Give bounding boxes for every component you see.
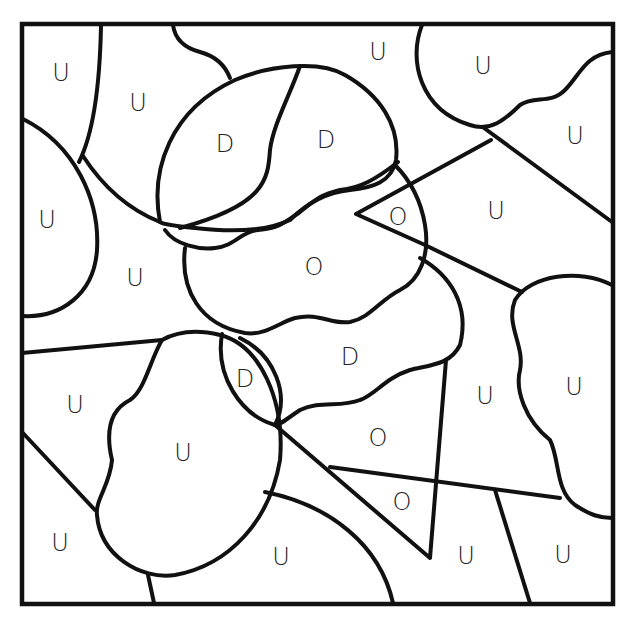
region-label: U (476, 382, 494, 410)
right-wavy-cloud (512, 276, 612, 518)
region-label: D (216, 130, 234, 158)
left-lower-diagonal (22, 432, 95, 510)
outline-shapes (22, 25, 612, 603)
region-label: U (565, 373, 583, 401)
top-wave (173, 25, 230, 78)
leaf-oval (158, 66, 397, 230)
region-label: U (38, 206, 56, 234)
region-label: U (487, 197, 505, 225)
region-label: O (389, 203, 408, 231)
line-top-left-divider (79, 25, 101, 162)
region-label: U (554, 541, 572, 569)
cloud-wave-top (165, 162, 398, 248)
coloring-page-canvas: U U U U U D D U O U U O D D U U U U O O … (0, 0, 634, 623)
region-label: U (272, 543, 290, 571)
bottom-right-divider (495, 490, 530, 603)
region-label: U (126, 264, 144, 292)
left-horizontal-line (22, 340, 162, 353)
region-label: U (66, 391, 84, 419)
region-label: O (393, 488, 412, 516)
outer-frame (22, 24, 613, 604)
region-label: O (305, 253, 324, 281)
leaf-inner-divider (180, 66, 300, 228)
region-label: U (174, 439, 192, 467)
region-label: U (51, 529, 69, 557)
region-label: D (236, 365, 254, 393)
lower-triangle (275, 360, 446, 558)
region-label: D (341, 343, 359, 371)
region-label: U (566, 122, 584, 150)
middle-cloud (184, 165, 426, 333)
region-label: O (369, 424, 388, 452)
lower-cloud-d (275, 258, 463, 425)
top-right-cloud (417, 25, 612, 127)
lower-horizontal-line (330, 467, 560, 498)
region-label: D (317, 126, 335, 154)
region-label: U (129, 89, 147, 117)
region-label: U (52, 59, 70, 87)
region-label: U (369, 38, 387, 66)
region-label: U (474, 52, 492, 80)
region-label: U (457, 542, 475, 570)
bottom-stem (148, 575, 154, 603)
